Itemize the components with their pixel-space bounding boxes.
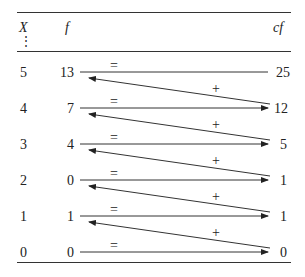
bottom-rule <box>17 262 291 263</box>
cumulative-frequency-arrows <box>0 0 305 277</box>
